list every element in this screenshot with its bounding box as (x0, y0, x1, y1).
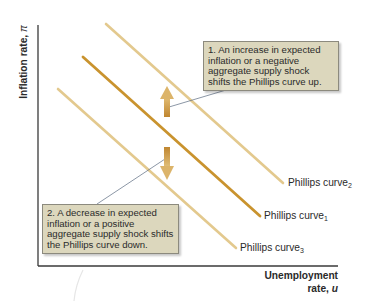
phillips-curve-chart: Inflation rate, π Unemployment rate, u 1… (0, 0, 373, 301)
label-phillips-curve-1: Phillips curve1 (264, 210, 328, 222)
callout-shift-up: 1. An increase in expected inflation or … (203, 41, 339, 91)
label-phillips-curve-2: Phillips curve2 (288, 177, 352, 189)
label-pc2-text: Phillips curve (288, 177, 348, 188)
callout-shift-down: 2. A decrease in expected inflation or a… (42, 204, 179, 254)
x-axis-label-line1: Unemployment (264, 270, 338, 283)
callout-shift-up-text: 1. An increase in expected inflation or … (208, 44, 322, 87)
x-axis-symbol: u (332, 283, 338, 294)
shift-down-arrow-icon (160, 147, 174, 180)
callout-down-leader (97, 159, 165, 204)
label-pc2-sub: 2 (348, 182, 352, 189)
y-axis-label: Inflation rate, π (18, 25, 29, 99)
y-axis-symbol: π (18, 25, 29, 32)
label-pc3-sub: 3 (300, 247, 304, 254)
shift-up-arrow-icon (160, 86, 174, 117)
scan-artifact (74, 270, 83, 301)
y-axis-label-text: Inflation rate, (18, 32, 29, 99)
callout-shift-down-text: 2. A decrease in expected inflation or a… (47, 207, 173, 250)
label-phillips-curve-3: Phillips curve3 (240, 242, 304, 254)
label-pc1-text: Phillips curve (264, 210, 324, 221)
label-pc3-text: Phillips curve (240, 242, 300, 253)
x-axis-label-line2: rate, (307, 283, 331, 294)
x-axis-label: Unemployment rate, u (264, 270, 338, 295)
label-pc1-sub: 1 (324, 215, 328, 222)
